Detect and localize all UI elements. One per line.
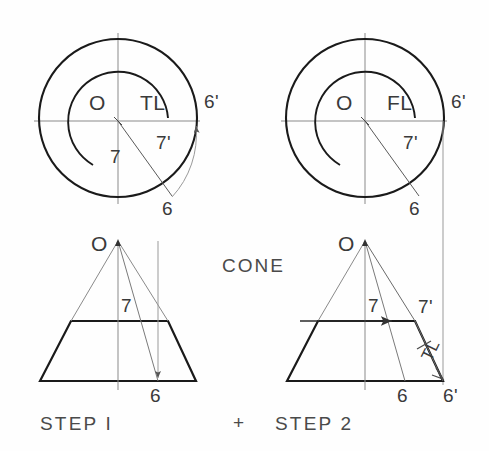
label-rotated-radius-7p-top-right: 7' xyxy=(403,132,418,153)
label-revolved-6p-bottom-right: 6' xyxy=(443,385,458,406)
cone-true-length-drawing: O TL 7 7' 6 6' O FL 7' 6 6' CONE xyxy=(0,0,489,451)
tl-arrowhead-lower xyxy=(432,368,443,379)
label-revolved-6p-top-left: 6' xyxy=(204,91,219,112)
label-apex-o-bottom-left: O xyxy=(91,232,108,255)
label-axis-7-bottom-right: 7 xyxy=(368,295,379,316)
label-revolved-6p-top-right: 6' xyxy=(451,91,466,112)
label-element-6-top-right: 6 xyxy=(409,198,420,219)
technical-drawing-canvas: O TL 7 7' 6 6' O FL 7' 6 6' CONE xyxy=(0,0,489,451)
label-fl-arc-top-right: FL xyxy=(387,91,413,114)
label-apex-o-top-left: O xyxy=(89,91,106,114)
label-true-length-7p-bottom-right: 7' xyxy=(418,296,433,317)
bottom-right-front-view: O 7 7' TL 6 6' STEP 2 xyxy=(275,232,458,434)
label-axis-7-bottom-left: 7 xyxy=(121,295,132,316)
label-tl-slant-bottom-right: TL xyxy=(418,337,444,364)
label-apex-o-bottom-right: O xyxy=(338,232,355,255)
drawing-title-cone: CONE xyxy=(222,255,285,276)
label-apex-o-top-right: O xyxy=(336,91,353,114)
top-right-plan-view: O FL 7' 6 6' xyxy=(281,33,466,385)
bottom-left-front-view: O 7 6 STEP I xyxy=(40,232,196,434)
apex-marker-left xyxy=(115,239,121,246)
label-element-6-bottom-left: 6 xyxy=(150,385,161,406)
label-element-6-bottom-right: 6 xyxy=(397,385,408,406)
apex-marker-right xyxy=(362,239,368,246)
label-rotated-radius-7p-top-left: 7' xyxy=(156,132,171,153)
label-radius-7-top-left: 7 xyxy=(110,146,121,167)
label-tl-arc-top-left: TL xyxy=(140,91,166,114)
label-element-6-top-left: 6 xyxy=(162,198,173,219)
step-label-2: STEP 2 xyxy=(275,413,353,434)
registration-plus-mark: + xyxy=(233,412,246,433)
step-label-1: STEP I xyxy=(40,413,113,434)
top-left-plan-view: O TL 7 7' 6 6' xyxy=(34,33,219,219)
